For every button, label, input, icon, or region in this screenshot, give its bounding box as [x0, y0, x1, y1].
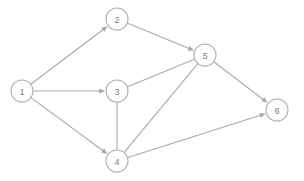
- graph-node-6[interactable]: 6: [266, 99, 288, 121]
- graph-node-5[interactable]: 5: [194, 44, 216, 66]
- graph-edge-5-to-6: [214, 62, 264, 100]
- graph-node-4[interactable]: 4: [106, 150, 128, 172]
- graph-node-1[interactable]: 1: [11, 80, 33, 102]
- node-label-6: 6: [275, 106, 280, 116]
- graph-edge-1-to-2: [31, 29, 104, 84]
- edges-layer: [31, 23, 264, 157]
- arrowhead-1-to-4: [101, 148, 107, 154]
- graph-edge-2-to-5: [128, 23, 190, 48]
- arrowhead-1-to-2: [101, 26, 107, 32]
- arrowhead-4-to-6: [259, 113, 266, 118]
- node-label-2: 2: [115, 15, 120, 25]
- node-label-4: 4: [115, 157, 120, 167]
- graph-node-3[interactable]: 3: [106, 80, 128, 102]
- graph-edge-4-to-6: [128, 115, 261, 157]
- graph-edge-1-to-4: [31, 98, 103, 151]
- node-label-1: 1: [20, 87, 25, 97]
- graph-svg: 123456: [0, 0, 304, 181]
- arrowhead-1-to-3: [99, 88, 105, 93]
- graph-node-2[interactable]: 2: [106, 8, 128, 30]
- arrowhead-5-to-6: [261, 97, 267, 103]
- node-label-5: 5: [203, 51, 208, 61]
- graph-edge-3-to-5: [128, 59, 195, 86]
- node-label-3: 3: [115, 87, 120, 97]
- graph-canvas: 123456: [0, 0, 304, 181]
